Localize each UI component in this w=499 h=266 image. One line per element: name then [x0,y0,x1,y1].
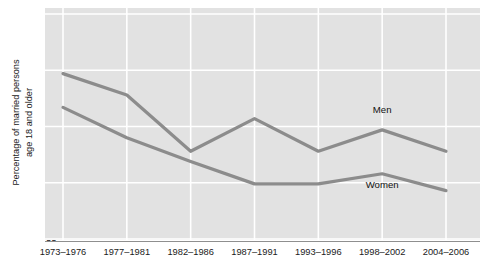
plot-area: Men Women [45,8,480,240]
series-label-men: Men [373,103,392,114]
horizontal-gridlines [45,14,480,239]
x-tick-label-1973-1976: 1973–1976 [40,247,87,258]
series-label-women: Women [366,178,399,189]
x-tick-label-1998-2002: 1998–2002 [359,247,406,258]
y-axis-title-line-1: Percentage of married persons [10,59,23,185]
plot-svg [45,8,480,240]
x-tick-label-2004-2006: 2004–2006 [423,247,470,258]
y-axis-title-line-2: age 18 and older [22,59,35,185]
x-tick-label-1977-1981: 1977–1981 [104,247,151,258]
x-tick-label-1987-1991: 1987–1991 [231,247,278,258]
x-axis-line [45,241,480,242]
vertical-gridlines [63,8,446,240]
y-axis-title: Percentage of married persons age 18 and… [0,0,44,244]
line-chart-figure: Percentage of married persons age 18 and… [0,0,499,266]
x-tick-label-1982-1986: 1982–1986 [167,247,214,258]
x-tick-label-1993-1996: 1993–1996 [295,247,342,258]
